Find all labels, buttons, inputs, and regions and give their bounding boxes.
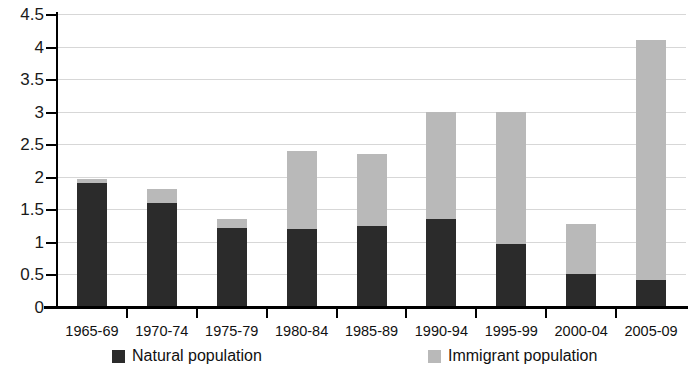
x-axis-tick-label: 1990-94 bbox=[415, 323, 468, 339]
bar-segment-natural bbox=[77, 183, 107, 307]
bar-stack bbox=[147, 14, 177, 307]
bar-segment-immigrant bbox=[636, 40, 666, 280]
legend-swatch-natural-icon bbox=[112, 350, 125, 363]
y-axis-tick bbox=[46, 14, 57, 16]
legend-label-natural: Natural population bbox=[132, 348, 262, 364]
y-axis-tick-label: 0 bbox=[0, 299, 44, 316]
y-axis-tick-label: 4 bbox=[0, 38, 44, 55]
bar-segment-natural bbox=[287, 229, 317, 307]
x-axis-tick bbox=[615, 309, 617, 318]
y-axis-tick bbox=[46, 112, 57, 114]
bar-stack bbox=[426, 14, 456, 307]
legend-item-immigrant-population: Immigrant population bbox=[428, 348, 597, 364]
bar-stack bbox=[77, 14, 107, 307]
y-axis-line bbox=[56, 12, 58, 309]
bar-segment-natural bbox=[426, 219, 456, 307]
bar-segment-immigrant bbox=[217, 219, 247, 227]
y-axis-tick bbox=[46, 307, 57, 309]
y-axis-tick bbox=[46, 47, 57, 49]
bar-segment-natural bbox=[217, 228, 247, 307]
x-axis-tick-label: 1980-84 bbox=[275, 323, 328, 339]
stacked-bar-chart: 00.511.522.533.544.5 1965-691970-741975-… bbox=[0, 0, 689, 377]
x-axis-tick bbox=[405, 309, 407, 318]
x-axis-tick-label: 2000-04 bbox=[555, 323, 608, 339]
x-axis-tick bbox=[266, 309, 268, 318]
bar-segment-immigrant bbox=[287, 151, 317, 229]
bar-stack bbox=[496, 14, 526, 307]
x-axis-tick bbox=[126, 309, 128, 318]
bar-stack bbox=[566, 14, 596, 307]
chart-legend: Natural population Immigrant population bbox=[0, 348, 689, 374]
bar-stack bbox=[217, 14, 247, 307]
bar-segment-natural bbox=[496, 244, 526, 307]
x-axis-tick-label: 2005-09 bbox=[624, 323, 677, 339]
bar-segment-natural bbox=[357, 226, 387, 307]
legend-label-immigrant: Immigrant population bbox=[448, 348, 597, 364]
bar-stack bbox=[287, 14, 317, 307]
x-axis-tick-label: 1970-74 bbox=[135, 323, 188, 339]
bar-segment-immigrant bbox=[566, 224, 596, 273]
x-axis-tick bbox=[545, 309, 547, 318]
y-axis-tick-label: 3 bbox=[0, 103, 44, 120]
x-axis-line bbox=[44, 306, 688, 309]
y-axis-tick-label: 1 bbox=[0, 233, 44, 250]
bar-segment-immigrant bbox=[357, 154, 387, 226]
y-axis-tick-label: 3.5 bbox=[0, 71, 44, 88]
y-axis-tick bbox=[46, 177, 57, 179]
y-axis-tick-label: 1.5 bbox=[0, 201, 44, 218]
x-axis-tick bbox=[336, 309, 338, 318]
bar-segment-natural bbox=[147, 203, 177, 307]
y-axis-tick-label: 2.5 bbox=[0, 136, 44, 153]
bar-segment-immigrant bbox=[426, 112, 456, 219]
bar-stack bbox=[357, 14, 387, 307]
x-axis-tick-label: 1965-69 bbox=[65, 323, 118, 339]
x-axis-tick-label: 1995-99 bbox=[485, 323, 538, 339]
legend-swatch-immigrant-icon bbox=[428, 350, 441, 363]
y-axis-tick bbox=[46, 144, 57, 146]
y-axis-tick bbox=[46, 242, 57, 244]
bar-segment-immigrant bbox=[77, 179, 107, 184]
y-axis-tick bbox=[46, 274, 57, 276]
x-axis-tick bbox=[475, 309, 477, 318]
x-axis-tick bbox=[196, 309, 198, 318]
bar-segment-natural bbox=[636, 280, 666, 307]
x-axis-tick-label: 1975-79 bbox=[205, 323, 258, 339]
x-axis-tick-label: 1985-89 bbox=[345, 323, 398, 339]
bar-stack bbox=[636, 14, 666, 307]
bar-segment-natural bbox=[566, 274, 596, 307]
y-axis-tick-label: 2 bbox=[0, 168, 44, 185]
bar-segment-immigrant bbox=[147, 189, 177, 203]
y-axis-tick-label: 4.5 bbox=[0, 6, 44, 23]
legend-item-natural-population: Natural population bbox=[112, 348, 262, 364]
y-axis-tick-label: 0.5 bbox=[0, 266, 44, 283]
y-axis-tick bbox=[46, 79, 57, 81]
bar-segment-immigrant bbox=[496, 112, 526, 244]
y-axis-tick bbox=[46, 209, 57, 211]
plot-area bbox=[57, 14, 686, 307]
